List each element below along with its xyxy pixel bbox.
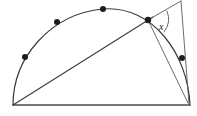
arc-point-dot <box>22 54 28 60</box>
angle-marker-arc <box>164 11 169 32</box>
arc-point-dot <box>100 6 106 12</box>
apex-to-base-line <box>181 1 189 104</box>
ray-to-apex-line <box>148 1 181 20</box>
geometry-figure: x <box>0 0 197 116</box>
arc-point-dot <box>145 17 151 23</box>
chord-line <box>13 17 153 105</box>
angle-label-x: x <box>158 21 164 32</box>
vertex-to-lower-arc-line <box>148 20 188 103</box>
arc-point-dot <box>54 19 60 25</box>
arc-point-dot <box>179 55 185 61</box>
